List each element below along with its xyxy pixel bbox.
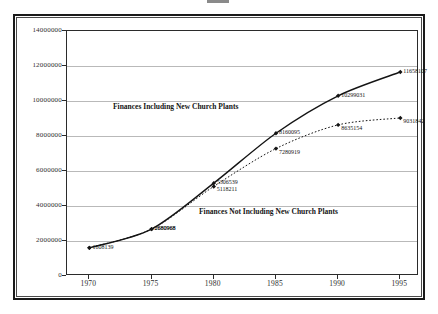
data-point-marker (274, 146, 278, 150)
y-axis-tick-label: 4000000 (36, 201, 62, 209)
y-axis-tick-label: 14000000 (32, 26, 62, 34)
data-point-label: 1608139 (92, 244, 113, 250)
y-axis-tick-label: 6000000 (36, 166, 62, 174)
x-axis-tick-label: 1970 (68, 279, 108, 288)
series-lines (67, 31, 419, 276)
data-point-label: 11658107 (403, 68, 427, 74)
x-axis-tick-label: 1995 (379, 279, 419, 288)
y-axis-tick-label: 12000000 (32, 61, 62, 69)
series-line-1 (89, 72, 400, 248)
x-axis-tick-label: 1990 (317, 279, 357, 288)
chart-figure: 0200000040000006000000800000010000000120… (0, 0, 438, 314)
y-axis-tick-label: 2000000 (36, 236, 62, 244)
series-line-2 (89, 118, 400, 248)
data-point-label: 5118211 (217, 186, 238, 192)
cropped-title-sliver (207, 0, 229, 3)
data-point-marker (336, 123, 340, 127)
x-axis-tick-label: 1975 (131, 279, 171, 288)
data-point-label: 8160095 (279, 129, 300, 135)
y-axis-tick-label: 8000000 (36, 131, 62, 139)
y-axis-tick-mark (62, 275, 66, 276)
data-point-marker (87, 246, 91, 250)
x-axis-tick-label: 1985 (255, 279, 295, 288)
data-point-label: 2680968 (155, 225, 176, 231)
data-point-label: 8635154 (341, 125, 362, 131)
y-axis-tick-label: 10000000 (32, 96, 62, 104)
data-point-label: 10299031 (341, 92, 365, 98)
data-point-marker (398, 70, 402, 74)
data-point-marker (398, 116, 402, 120)
chart-annotation: Finances Not Including New Church Plants (199, 207, 338, 216)
plot-area (66, 30, 418, 275)
chart-annotation: Finances Including New Church Plants (113, 102, 238, 111)
data-point-label: 9031842 (403, 118, 424, 124)
data-point-label: 7280919 (279, 149, 300, 155)
data-point-label: 5306539 (217, 179, 238, 185)
x-axis-tick-label: 1980 (193, 279, 233, 288)
